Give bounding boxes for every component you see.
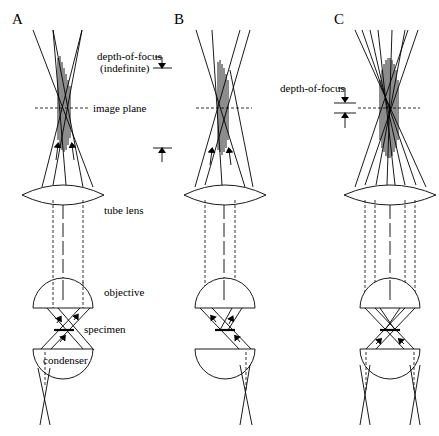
panel-label-b: B: [174, 11, 184, 27]
panel-label-a: A: [12, 11, 23, 27]
panel-b: [184, 30, 266, 425]
microscope-ray-diagram: A B C: [0, 0, 439, 436]
panel-label-c: C: [334, 11, 344, 27]
depth-of-focus-marker: [334, 88, 356, 128]
label-tube-lens: tube lens: [104, 204, 143, 216]
tube-lens-b: [184, 185, 266, 205]
label-objective: objective: [104, 286, 144, 298]
tube-lens-a: [22, 185, 104, 205]
objective-b: [195, 278, 255, 308]
label-image-plane: image plane: [93, 102, 147, 114]
focal-hatch-a: [58, 56, 70, 152]
label-condenser: condenser: [43, 354, 88, 366]
label-specimen: specimen: [84, 323, 126, 335]
label-depth-of-focus-indefinite-2: (indefinite): [100, 62, 150, 75]
label-depth-of-focus: depth-of-focus: [280, 82, 345, 94]
depth-of-focus-indefinite-marker: [153, 57, 172, 162]
label-depth-of-focus-indefinite-1: depth-of-focus: [97, 50, 162, 62]
tube-lens-c: [344, 185, 436, 205]
panel-c: [344, 30, 436, 425]
condenser-c: [360, 349, 420, 379]
